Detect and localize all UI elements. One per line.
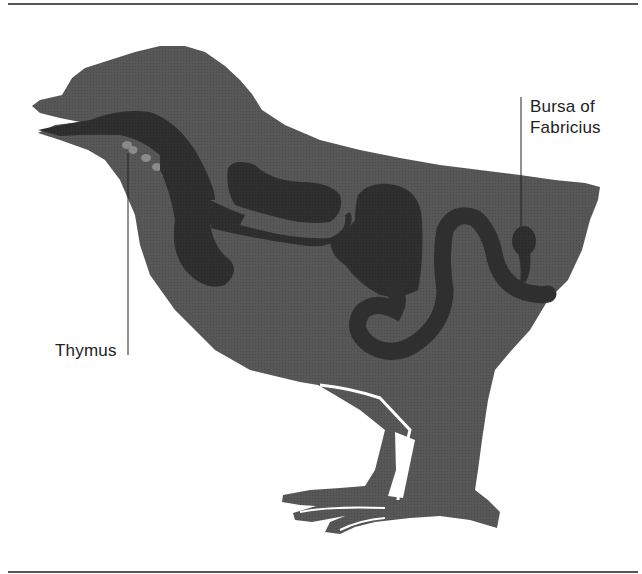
label-bursa-of-fabricius: Bursa of Fabricius bbox=[530, 96, 601, 138]
chick-anatomy-illustration bbox=[0, 0, 642, 574]
label-bursa-line-1: Bursa of bbox=[530, 96, 601, 117]
label-bursa-line-2: Fabricius bbox=[530, 117, 601, 138]
label-thymus: Thymus bbox=[55, 340, 117, 361]
bursa-of-fabricius bbox=[512, 226, 536, 256]
bottom-rule bbox=[8, 571, 638, 573]
